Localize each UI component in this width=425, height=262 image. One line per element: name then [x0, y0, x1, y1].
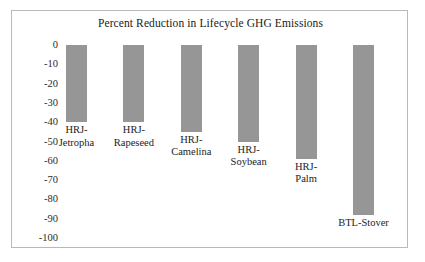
- bar[interactable]: [66, 45, 87, 122]
- y-axis-tick: -10: [12, 59, 58, 69]
- y-axis-tick-label: -10: [44, 59, 58, 69]
- y-axis-tick: -30: [12, 98, 58, 108]
- y-axis-tick: -90: [12, 214, 58, 224]
- chart-frame: Percent Reduction in Lifecycle GHG Emiss…: [11, 10, 408, 248]
- bar[interactable]: [353, 45, 374, 215]
- y-axis-tick-label: -20: [44, 79, 58, 89]
- y-axis-tick-label: -60: [44, 156, 58, 166]
- y-axis-tick: -100: [12, 233, 58, 243]
- bar[interactable]: [181, 45, 202, 132]
- y-axis-tick: -20: [12, 79, 58, 89]
- y-axis-tick-label: 0: [53, 40, 58, 50]
- y-axis-tick: -60: [12, 156, 58, 166]
- bar[interactable]: [238, 45, 259, 142]
- bar-category-label: BTL-Stover: [325, 217, 403, 230]
- bar-category-label: HRJ- Palm: [267, 161, 345, 186]
- y-axis-tick: -80: [12, 194, 58, 204]
- y-axis-tick-label: -100: [39, 233, 58, 243]
- y-axis-tick: 0: [12, 40, 58, 50]
- y-axis-tick-label: -80: [44, 194, 58, 204]
- y-axis-tick: -70: [12, 175, 58, 185]
- plot-area: 0-10-20-30-40-50-60-70-80-90-100 HRJ- Je…: [12, 11, 409, 249]
- bar[interactable]: [123, 45, 144, 122]
- y-axis-tick-label: -30: [44, 98, 58, 108]
- y-axis-tick-label: -90: [44, 214, 58, 224]
- bar[interactable]: [296, 45, 317, 159]
- y-axis-tick-label: -70: [44, 175, 58, 185]
